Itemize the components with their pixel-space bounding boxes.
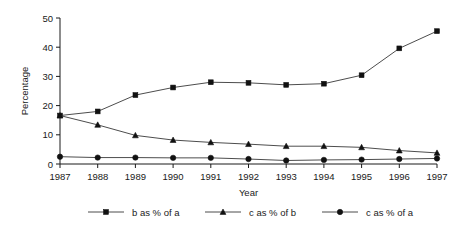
- legend-marker-circle: [337, 209, 342, 214]
- y-tick-label: 10: [42, 129, 53, 140]
- data-point-circle: [246, 156, 251, 161]
- legend-label-triangle: c as % of b: [249, 207, 296, 218]
- data-point-square: [208, 80, 213, 85]
- data-point-circle: [133, 155, 138, 160]
- y-tick-label: 0: [48, 159, 53, 170]
- data-point-square: [322, 81, 327, 86]
- legend-entry-triangle[interactable]: c as % of b: [205, 207, 296, 218]
- x-tick-label: 1997: [426, 171, 447, 182]
- legend-entry-square[interactable]: b as % of a: [88, 207, 180, 218]
- series-line-triangle: [60, 116, 437, 153]
- y-tick-label: 40: [42, 42, 53, 53]
- data-point-circle: [208, 155, 213, 160]
- data-point-square: [435, 29, 440, 34]
- series-line-square: [60, 31, 437, 115]
- data-point-square: [359, 73, 364, 78]
- x-tick-label: 1987: [49, 171, 70, 182]
- x-tick-label: 1992: [238, 171, 259, 182]
- data-point-square: [171, 85, 176, 90]
- data-point-circle: [95, 155, 100, 160]
- x-tick-label: 1996: [389, 171, 410, 182]
- data-point-circle: [170, 155, 175, 160]
- series-circle: [57, 154, 439, 163]
- legend-marker-square: [104, 210, 109, 215]
- data-point-circle: [434, 156, 439, 161]
- data-point-square: [397, 46, 402, 51]
- data-point-square: [246, 80, 251, 85]
- x-tick-label: 1988: [87, 171, 108, 182]
- y-axis-title: Percentage: [19, 67, 30, 116]
- x-tick-label: 1989: [125, 171, 146, 182]
- x-tick-label: 1993: [276, 171, 297, 182]
- line-chart: 0102030405019871988198919901991199219931…: [0, 0, 456, 230]
- data-point-circle: [321, 157, 326, 162]
- legend-entry-circle[interactable]: c as % of a: [322, 207, 414, 218]
- data-point-circle: [397, 156, 402, 161]
- data-point-circle: [359, 157, 364, 162]
- legend-label-square: b as % of a: [132, 207, 180, 218]
- x-axis-title: Year: [239, 187, 258, 198]
- x-tick-label: 1990: [163, 171, 184, 182]
- data-point-circle: [57, 154, 62, 159]
- y-tick-label: 20: [42, 100, 53, 111]
- series-triangle: [57, 113, 440, 156]
- data-point-square: [133, 93, 138, 98]
- data-point-square: [95, 109, 100, 114]
- chart-figure: 0102030405019871988198919901991199219931…: [0, 0, 456, 230]
- y-tick-label: 50: [42, 13, 53, 24]
- legend-label-circle: c as % of a: [366, 207, 414, 218]
- y-tick-label: 30: [42, 71, 53, 82]
- data-point-square: [284, 82, 289, 87]
- x-tick-label: 1994: [313, 171, 334, 182]
- x-tick-label: 1991: [200, 171, 221, 182]
- data-point-circle: [284, 158, 289, 163]
- series-square: [58, 29, 440, 118]
- x-tick-label: 1995: [351, 171, 372, 182]
